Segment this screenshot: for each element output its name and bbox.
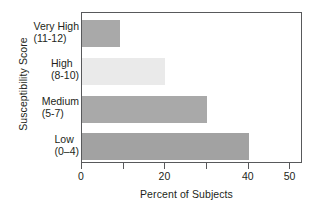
x-axis-tick xyxy=(123,163,124,169)
bar xyxy=(82,133,249,160)
category-label-range: (5-7) xyxy=(42,107,79,119)
x-axis-tick-label: 40 xyxy=(228,170,268,182)
x-axis-tick xyxy=(81,163,82,169)
category-label-name: Very High xyxy=(33,20,79,32)
category-label: High(8-10) xyxy=(51,57,79,81)
plot-area xyxy=(81,12,302,163)
category-label-name: Medium xyxy=(42,95,79,107)
x-axis-tick-labels: 0204050 xyxy=(81,170,302,184)
category-label: Very High(11-12) xyxy=(33,20,79,44)
bars-layer xyxy=(82,13,301,162)
x-axis-tick xyxy=(289,163,290,169)
x-axis-tick xyxy=(164,163,165,169)
x-axis-tick-label: 0 xyxy=(61,170,101,182)
category-label-name: High xyxy=(51,57,79,69)
x-axis-tick xyxy=(206,163,207,169)
category-axis-labels: Very High(11-12)High(8-10)Medium(5-7)Low… xyxy=(26,12,80,163)
category-label-range: (11-12) xyxy=(33,32,79,44)
x-axis-title: Percent of Subjects xyxy=(81,188,292,200)
category-label-range: (8-10) xyxy=(51,69,79,81)
category-label-range: (0–4) xyxy=(54,145,79,157)
bar-chart: Susceptibility Score Very High(11-12)Hig… xyxy=(0,0,317,212)
x-axis-tick-label: 20 xyxy=(144,170,184,182)
bar xyxy=(82,20,120,47)
category-label-name: Low xyxy=(54,133,79,145)
category-label: Low(0–4) xyxy=(54,133,79,157)
x-axis-tick-label: 50 xyxy=(269,170,309,182)
x-axis-tick xyxy=(248,163,249,169)
bar xyxy=(82,58,165,85)
x-axis-ticks xyxy=(81,163,302,169)
bar xyxy=(82,96,207,123)
category-label: Medium(5-7) xyxy=(42,95,79,119)
